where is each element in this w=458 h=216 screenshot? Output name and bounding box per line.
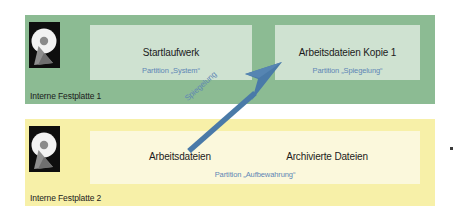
partition-panel-system: Startlaufwerk Partition „System“ [90, 25, 252, 80]
hard-drive-icon [29, 126, 60, 172]
partition-label-archivierte-dateien: Archivierte Dateien [252, 151, 402, 162]
diagram-canvas: Startlaufwerk Partition „System“ Arbeits… [0, 0, 458, 216]
partition-label-arbeitsdateien: Arbeitsdateien [110, 151, 250, 162]
partition-title-system: Startlaufwerk [90, 47, 252, 58]
partition-title-mirror: Arbeitsdateien Kopie 1 [275, 47, 420, 58]
disk-caption-2: Interne Festplatte 2 [30, 193, 101, 203]
partition-subtitle-aufbewahrung: Partition „Aufbewahrung“ [90, 170, 420, 179]
partition-subtitle-mirror: Partition „Spiegelung“ [275, 66, 420, 75]
partition-panel-aufbewahrung: Arbeitsdateien Archivierte Dateien Parti… [90, 131, 420, 184]
hard-drive-icon [29, 22, 60, 68]
partition-subtitle-system: Partition „System“ [90, 66, 252, 75]
partition-panel-mirror: Arbeitsdateien Kopie 1 Partition „Spiege… [275, 25, 420, 80]
disk-caption-1: Interne Festplatte 1 [30, 91, 101, 101]
disk-container-1: Startlaufwerk Partition „System“ Arbeits… [25, 15, 435, 104]
stray-mark [450, 147, 453, 150]
disk-container-2: Arbeitsdateien Archivierte Dateien Parti… [25, 119, 435, 206]
